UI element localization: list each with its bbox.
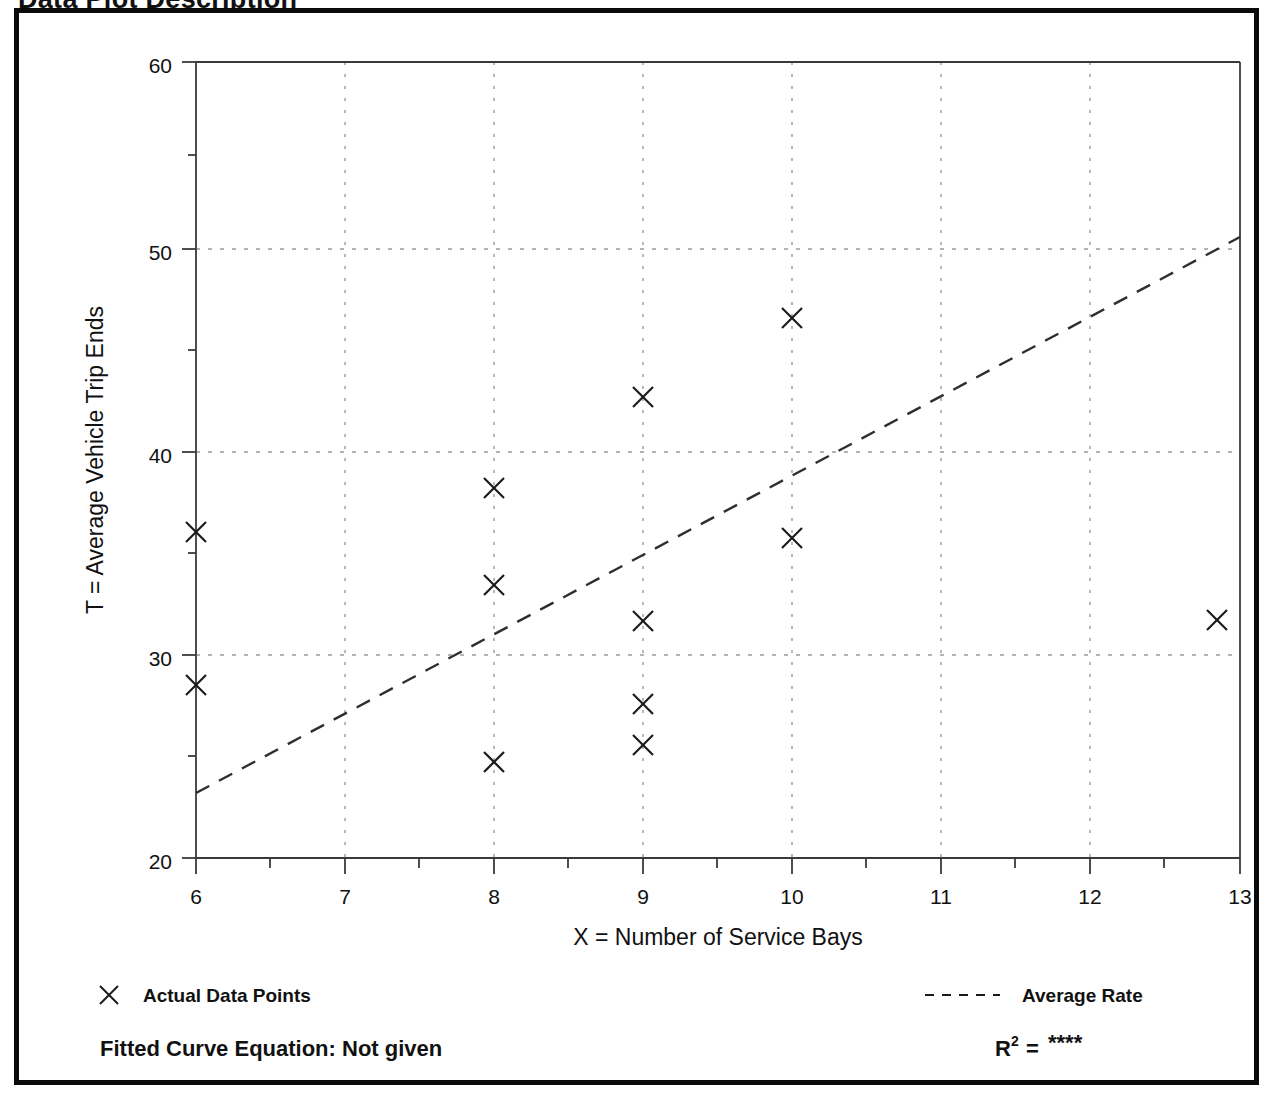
plot-axes	[196, 62, 1240, 858]
x-tick-labels: 6 7 8 9 10 11 12 13	[190, 885, 1252, 908]
footer: Fitted Curve Equation: Not given R 2 = *…	[100, 1030, 1083, 1061]
data-point-markers	[186, 308, 1227, 772]
fitted-curve-equation-label: Fitted Curve Equation: Not given	[100, 1036, 442, 1061]
average-rate-line	[196, 237, 1240, 793]
x-tick-label-11: 11	[930, 885, 952, 908]
r-squared-prefix: R	[995, 1036, 1011, 1061]
x-tick-label-12: 12	[1078, 885, 1101, 908]
grid-lines	[196, 62, 1240, 858]
y-tick-label-60: 60	[149, 54, 172, 77]
trend-line-segment	[196, 237, 1240, 793]
x-tick-label-10: 10	[780, 885, 803, 908]
legend-item-average-rate[interactable]: Average Rate	[925, 985, 1143, 1006]
y-tick-labels: 20 30 40 50 60	[149, 54, 172, 873]
x-tick-label-6: 6	[190, 885, 202, 908]
legend: Actual Data Points Average Rate	[100, 985, 1143, 1006]
chart-figure: 20 30 40 50 60 6 7 8 9 10 11 12 13 X = N…	[0, 0, 1276, 1097]
data-point	[484, 752, 504, 772]
x-marker-icon	[100, 986, 118, 1004]
x-tick-marks	[196, 858, 1240, 874]
r-squared-block: R 2 = ****	[995, 1030, 1083, 1061]
r-squared-value: ****	[1048, 1030, 1083, 1055]
y-tick-label-50: 50	[149, 241, 172, 264]
x-tick-label-9: 9	[637, 885, 649, 908]
x-tick-label-8: 8	[488, 885, 500, 908]
x-tick-label-13: 13	[1228, 885, 1251, 908]
data-point	[1207, 610, 1227, 630]
legend-item-actual-data-points[interactable]: Actual Data Points	[100, 985, 311, 1006]
y-axis-title: T = Average Vehicle Trip Ends	[82, 306, 108, 614]
scatter-plot-svg: 20 30 40 50 60 6 7 8 9 10 11 12 13 X = N…	[0, 0, 1276, 1097]
legend-label-actual-data-points: Actual Data Points	[143, 985, 311, 1006]
y-tick-label-40: 40	[149, 444, 172, 467]
data-point	[633, 735, 653, 755]
x-tick-label-7: 7	[339, 885, 351, 908]
x-axis-title: X = Number of Service Bays	[573, 924, 863, 950]
data-point	[782, 308, 802, 328]
r-squared-equals: =	[1026, 1036, 1039, 1061]
legend-label-average-rate: Average Rate	[1022, 985, 1143, 1006]
r-squared-exponent: 2	[1011, 1033, 1019, 1049]
y-tick-label-20: 20	[149, 850, 172, 873]
y-tick-label-30: 30	[149, 647, 172, 670]
data-point	[633, 387, 653, 407]
y-tick-marks	[182, 62, 196, 858]
